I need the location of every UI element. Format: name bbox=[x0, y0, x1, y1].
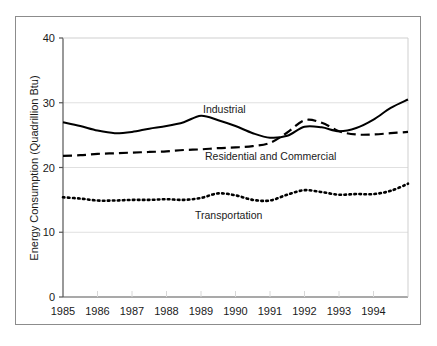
xtick-label-1985: 1985 bbox=[51, 305, 75, 317]
xtick-label-1986: 1986 bbox=[85, 305, 109, 317]
x-axis-ticks bbox=[98, 291, 374, 297]
ytick-label-40: 40 bbox=[43, 32, 55, 44]
series-line-transportation bbox=[63, 184, 408, 201]
xtick-label-1992: 1992 bbox=[292, 305, 316, 317]
xtick-label-1987: 1987 bbox=[120, 305, 144, 317]
series-label-industrial: Industrial bbox=[203, 103, 246, 115]
ytick-label-0: 0 bbox=[49, 291, 55, 303]
series-label-residential-and-commercial: Residential and Commercial bbox=[205, 150, 336, 162]
y-axis-title: Energy Consumption (Quadrillion Btu) bbox=[28, 75, 40, 260]
line-chart: 010203040 198519861987198819891990199119… bbox=[0, 0, 437, 346]
xtick-label-1990: 1990 bbox=[223, 305, 247, 317]
series-label-transportation: Transportation bbox=[195, 209, 262, 221]
ytick-label-30: 30 bbox=[43, 97, 55, 109]
ytick-label-10: 10 bbox=[43, 226, 55, 238]
y-axis-tick-labels: 010203040 bbox=[43, 32, 63, 303]
ytick-label-20: 20 bbox=[43, 162, 55, 174]
chart-figure: 010203040 198519861987198819891990199119… bbox=[0, 0, 437, 346]
x-axis-tick-labels: 1985198619871988198919901991199219931994 bbox=[51, 305, 386, 317]
xtick-label-1988: 1988 bbox=[154, 305, 178, 317]
xtick-label-1994: 1994 bbox=[361, 305, 385, 317]
xtick-label-1991: 1991 bbox=[258, 305, 282, 317]
xtick-label-1989: 1989 bbox=[189, 305, 213, 317]
xtick-label-1993: 1993 bbox=[327, 305, 351, 317]
